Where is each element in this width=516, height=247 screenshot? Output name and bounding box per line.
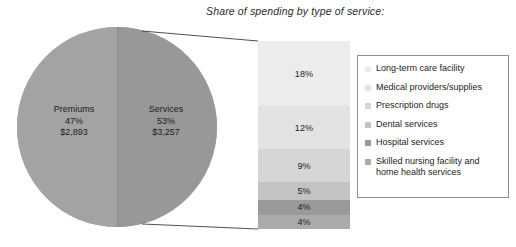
pie-label-premiums-name: Premiums	[31, 104, 117, 116]
legend-item-label: Skilled nursing facility and home health…	[376, 156, 503, 179]
legend-swatch-icon	[365, 140, 371, 146]
bar-segment: 9%	[258, 149, 350, 182]
bar-segment: 18%	[258, 41, 350, 106]
pie-label-services-amount: $3,257	[123, 127, 209, 139]
legend-swatch-icon	[365, 122, 371, 128]
legend-item[interactable]: Dental services	[365, 119, 503, 131]
legend-item-label: Medical providers/supplies	[376, 82, 482, 94]
legend-item[interactable]: Prescription drugs	[365, 100, 503, 112]
legend-item-label: Prescription drugs	[376, 100, 449, 112]
legend-item-label: Hospital services	[376, 137, 444, 149]
pie-label-services: Services 53% $3,257	[123, 104, 209, 139]
legend-item-label: Dental services	[376, 119, 438, 131]
pie-label-services-name: Services	[123, 104, 209, 116]
bar-segment-label: 12%	[295, 123, 313, 133]
legend-swatch-icon	[365, 85, 371, 91]
legend-item[interactable]: Skilled nursing facility and home health…	[365, 156, 503, 179]
chart-title: Share of spending by type of service:	[206, 5, 466, 17]
pie-label-services-percent: 53%	[123, 116, 209, 128]
bar-segment-label: 4%	[297, 217, 310, 227]
bar-segment-label: 5%	[297, 186, 310, 196]
bar-segment: 5%	[258, 182, 350, 200]
legend-swatch-icon	[365, 159, 371, 165]
legend-swatch-icon	[365, 66, 371, 72]
bar-segment: 4%	[258, 200, 350, 214]
legend-item[interactable]: Hospital services	[365, 137, 503, 149]
bar-segment-label: 4%	[297, 202, 310, 212]
legend-swatch-icon	[365, 103, 371, 109]
legend: Long-term care facility Medical provider…	[357, 55, 509, 198]
spending-breakdown-figure: Share of spending by type of service: Pr…	[0, 0, 516, 247]
stacked-bar-chart: 18%12%9%5%4%4%	[258, 41, 350, 229]
bar-segment-label: 18%	[295, 69, 313, 79]
bar-segment: 12%	[258, 106, 350, 149]
pie-label-premiums-percent: 47%	[31, 116, 117, 128]
bar-segment: 4%	[258, 215, 350, 229]
pie-label-premiums-amount: $2,893	[31, 127, 117, 139]
pie-chart: Premiums 47% $2,893 Services 53% $3,257	[17, 27, 217, 227]
pie-label-premiums: Premiums 47% $2,893	[31, 104, 117, 139]
legend-item[interactable]: Medical providers/supplies	[365, 82, 503, 94]
legend-item-label: Long-term care facility	[376, 63, 465, 75]
bar-segment-label: 9%	[297, 161, 310, 171]
legend-item[interactable]: Long-term care facility	[365, 63, 503, 75]
